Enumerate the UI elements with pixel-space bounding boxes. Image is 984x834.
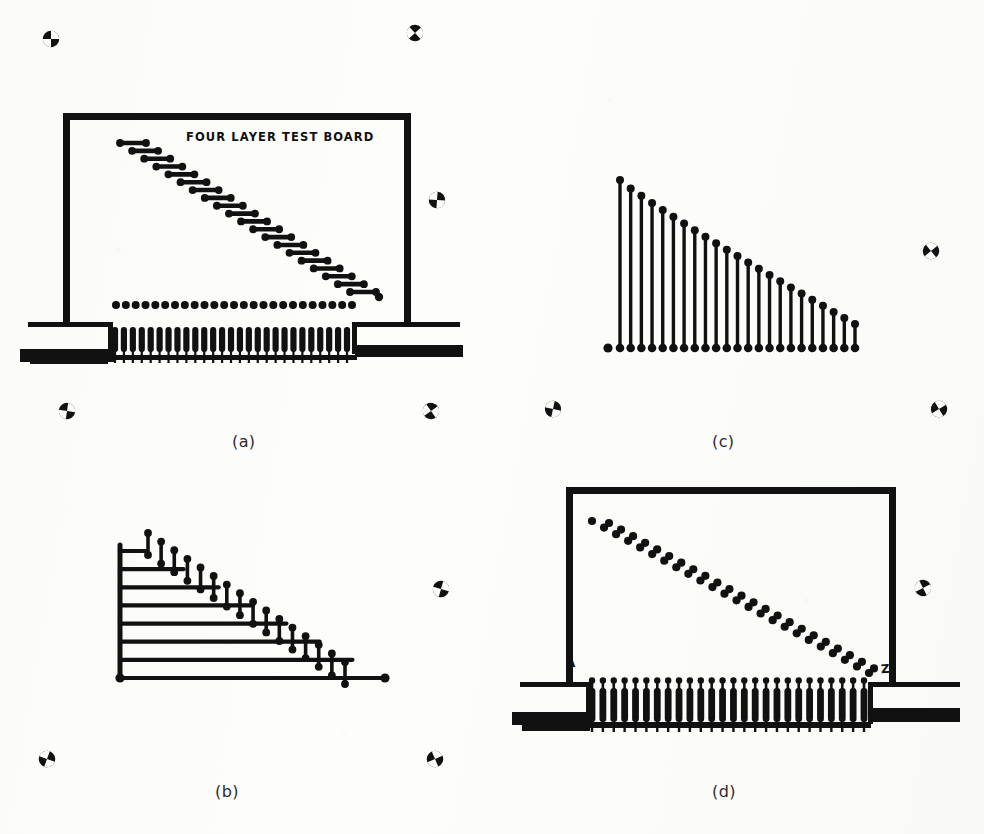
pad [279, 301, 287, 309]
dumbbell-pad [210, 572, 218, 580]
pin-body [589, 688, 596, 722]
registration-mark-icon [404, 22, 426, 44]
trace-base-pad [744, 344, 753, 353]
pin-tail [602, 720, 604, 732]
pin-tail [203, 350, 205, 363]
pin-tail [841, 720, 843, 732]
trace-top-pad [830, 308, 838, 316]
pin-tail [591, 720, 593, 732]
trace-base-pad [776, 344, 785, 353]
trace-pad [324, 257, 332, 265]
vertical-dumbbells-b [144, 529, 349, 688]
pin-body [817, 688, 824, 722]
vertical-trace-bars-c [616, 176, 860, 352]
pin-tail [689, 720, 691, 732]
pin-body [317, 327, 323, 352]
pin-body [183, 327, 189, 352]
dumbbell-pad [157, 560, 165, 568]
pin-head [839, 677, 845, 683]
trace-top-pad [851, 320, 859, 328]
trace-base-pad [829, 344, 838, 353]
trace-pad [322, 272, 330, 280]
registration-mark-icon [928, 398, 950, 420]
dumbbell-pad [302, 632, 310, 640]
trace-base-pad [712, 344, 721, 353]
pin-body [839, 688, 846, 722]
trace-base-pad [819, 344, 828, 353]
pad [774, 611, 782, 619]
pin-tail [239, 350, 241, 363]
trace-pad [348, 272, 356, 280]
trace-base-pad [851, 344, 860, 353]
trace-top-pad [744, 258, 752, 266]
pin-tail [678, 720, 680, 732]
pad [122, 301, 130, 309]
registration-mark-icon [430, 578, 452, 600]
trace-top-pad [723, 246, 731, 254]
panel-label-c: (c) [712, 432, 734, 451]
pin-tail [328, 350, 330, 363]
trace-base-pad [648, 344, 657, 353]
pin-body [246, 327, 252, 352]
pin-body [326, 327, 332, 352]
pin-body [157, 327, 163, 352]
pin-tail [212, 350, 214, 363]
pin-body [763, 688, 770, 722]
dumbbell-pad [289, 624, 297, 632]
pin-head [774, 677, 780, 683]
pin-body [610, 688, 617, 722]
registration-mark-icon [426, 189, 448, 211]
pin-head [828, 677, 834, 683]
pad [112, 301, 120, 309]
registration-mark-icon [912, 577, 934, 599]
panel-b [60, 500, 460, 760]
pin-tail [310, 350, 312, 363]
trace-end-pad [380, 673, 389, 682]
pin-body [632, 688, 639, 722]
pin-body [774, 688, 781, 722]
pin-body [676, 688, 683, 722]
pad [220, 301, 228, 309]
pin-body [264, 327, 270, 352]
pin-body [719, 688, 726, 722]
pad [870, 664, 878, 672]
pad [588, 517, 596, 525]
trace-top-pad [819, 302, 827, 310]
pin-tail [645, 720, 647, 732]
trace-pad [273, 241, 281, 249]
trace-pad [251, 210, 259, 218]
pad [171, 301, 179, 309]
trace-top-pad [616, 176, 624, 184]
dumbbell-pad [223, 581, 231, 589]
registration-mark-icon [56, 400, 78, 422]
pin-body [643, 688, 650, 722]
pad [260, 301, 268, 309]
pad [250, 301, 258, 309]
pin-tail [852, 720, 854, 732]
trace-pad [191, 170, 199, 178]
registration-mark-icon [424, 748, 446, 770]
trace-base-pad [787, 344, 796, 353]
dumbbell-pad [315, 663, 323, 671]
registration-mark-icon [542, 398, 564, 420]
pin-body [654, 688, 661, 722]
registration-mark-icon [920, 240, 942, 262]
pin-body [201, 327, 207, 352]
pin-tail [776, 720, 778, 732]
pin-tail [721, 720, 723, 732]
pad [653, 545, 661, 553]
pad [240, 301, 248, 309]
pin-head [698, 677, 704, 683]
pad [701, 572, 709, 580]
pin-body [139, 327, 145, 352]
trace-pad [178, 163, 186, 171]
pin-head [687, 677, 693, 683]
pad [749, 598, 757, 606]
trace-top-pad [669, 213, 677, 221]
diagonal-pad-rows-d [588, 517, 878, 677]
registration-mark-icon [36, 748, 58, 770]
pin-head [719, 677, 725, 683]
trace-base-pad [733, 344, 742, 353]
pad [328, 301, 336, 309]
pad [822, 638, 830, 646]
